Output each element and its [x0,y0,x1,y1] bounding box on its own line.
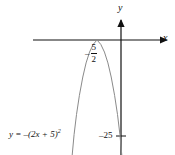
equation-text: y = –(2x + 5) [9,129,58,139]
parabola-curve [72,40,122,155]
axis-label-y: y [118,3,122,13]
equation-exponent: 2 [58,128,61,134]
graph-figure: y x – 5 2 –25 y = –(2x + 5)2 [0,0,175,155]
vertex-label: – 5 2 [85,43,97,64]
vertex-minus-sign: – [85,49,90,58]
vertex-denominator: 2 [91,55,98,64]
axis-label-x: x [163,33,167,43]
y-intercept-label: –25 [99,131,113,140]
equation-label: y = –(2x + 5)2 [9,128,61,139]
vertex-fraction: 5 2 [91,43,98,64]
y-axis-arrow-icon [117,19,124,27]
vertex-numerator: 5 [91,43,98,52]
